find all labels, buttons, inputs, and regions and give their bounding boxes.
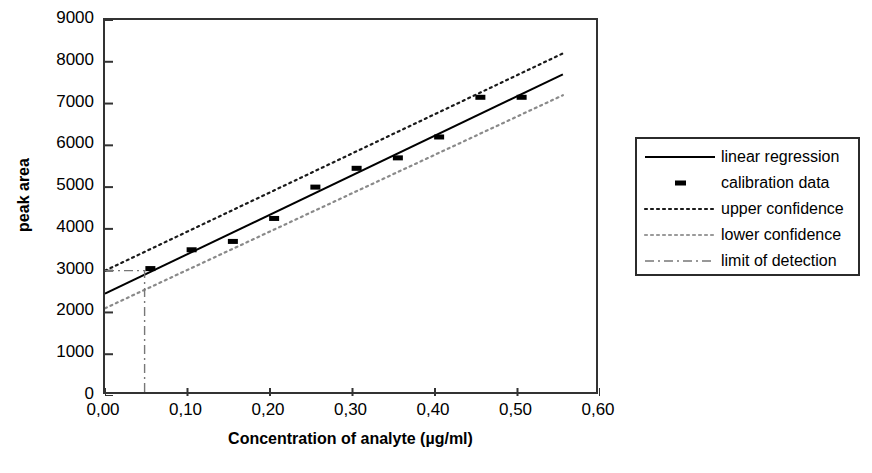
y-axis-tick-label: 9000 (56, 9, 94, 26)
legend-item-label: upper confidence (717, 200, 844, 218)
x-axis-title: Concentration of analyte (µg/ml) (103, 430, 598, 448)
y-axis-tick-label: 2000 (56, 301, 94, 318)
y-axis-tick-label: 8000 (56, 51, 94, 68)
legend-item[interactable]: linear regression (637, 144, 858, 170)
calibration-data-point (517, 95, 527, 100)
legend-item-label: calibration data (717, 174, 830, 192)
calibration-data-point (434, 134, 444, 139)
legend-item[interactable]: upper confidence (637, 196, 858, 222)
x-axis-tick-label: 0,40 (393, 400, 473, 419)
dotted-dark-key-icon (643, 199, 717, 219)
x-axis-tick-label: 0,50 (476, 400, 556, 419)
marker-key-icon (643, 173, 717, 193)
legend-item-label: limit of detection (717, 252, 837, 270)
x-axis-tick-label: 0,20 (228, 400, 308, 419)
legend-item[interactable]: lower confidence (637, 222, 858, 248)
upper-confidence-line (105, 53, 563, 270)
legend-box: linear regressioncalibration dataupper c… (635, 137, 860, 276)
calibration-data-point (352, 166, 362, 171)
x-axis-tick-label: 0,10 (146, 400, 226, 419)
x-axis-tick-label: 0,30 (311, 400, 391, 419)
linear-regression-line (105, 74, 563, 293)
dashdot-key-icon (643, 251, 717, 271)
chart-figure: 0100020003000400050006000700080009000 pe… (0, 0, 872, 473)
y-axis-title: peak area (15, 135, 33, 255)
legend-item-label: lower confidence (717, 226, 841, 244)
y-axis-tick-label: 1000 (56, 343, 94, 360)
solid-line-key-icon (643, 147, 717, 167)
calibration-data-point (187, 247, 197, 252)
x-axis-tick-labels: 0,000,100,200,300,400,500,60 (0, 400, 872, 424)
legend-item[interactable]: calibration data (637, 170, 858, 196)
y-axis-tick-label: 7000 (56, 93, 94, 110)
x-axis-tick-label: 0,00 (63, 400, 143, 419)
calibration-data-point (269, 216, 279, 221)
calibration-data-point (475, 95, 485, 100)
y-axis-tick-label: 6000 (56, 134, 94, 151)
y-axis-tick-label: 5000 (56, 176, 94, 193)
x-axis-tick-label: 0,60 (558, 400, 638, 419)
calibration-data-point (393, 155, 403, 160)
lower-confidence-line (105, 95, 563, 308)
plot-area (103, 18, 598, 394)
legend-item-label: linear regression (717, 148, 839, 166)
plot-canvas (105, 20, 600, 396)
legend-item[interactable]: limit of detection (637, 248, 858, 274)
calibration-data-point (310, 185, 320, 190)
calibration-data-point (145, 266, 155, 271)
calibration-data-point (228, 239, 238, 244)
y-axis-tick-label: 3000 (56, 260, 94, 277)
dotted-light-key-icon (643, 225, 717, 245)
y-axis-tick-label: 4000 (56, 218, 94, 235)
limit-of-detection-line (105, 271, 145, 396)
